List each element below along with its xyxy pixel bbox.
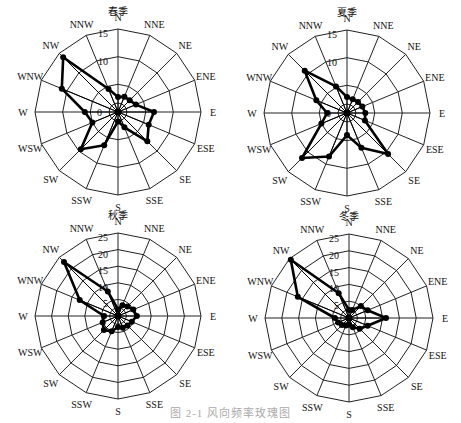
direction-label: SW [43,378,59,389]
data-point [130,307,136,313]
data-point [344,132,350,138]
data-point [302,68,308,74]
data-point [365,307,371,313]
direction-label: W [18,311,28,322]
direction-label: NW [42,40,59,51]
wind-rose-chart: NNNENEENEEESESESSESSSWSWWSWWWNWNWNNW0101… [17,6,216,213]
data-point [333,83,339,89]
data-point [77,297,83,303]
tick-label: 20 [98,249,108,260]
data-point [105,289,111,295]
chart-title: 春季 [108,6,128,17]
direction-label: NNW [70,19,94,30]
direction-label: WSW [247,144,272,155]
direction-label: E [210,311,216,322]
data-point [127,97,133,103]
direction-label: W [247,108,257,119]
data-point [121,124,127,130]
data-point [78,146,84,152]
tick-label: 15 [98,28,108,39]
data-point [119,302,125,308]
data-point [124,304,130,310]
direction-label: ESE [429,350,447,361]
direction-label: E [439,108,445,119]
data-point [358,303,364,309]
data-point [365,323,371,329]
direction-label: NW [273,245,290,256]
data-point [109,328,115,334]
data-point [295,294,301,300]
tick-label: 10 [98,56,108,67]
direction-label: NNE [373,20,394,31]
direction-label: NW [42,244,59,255]
direction-label: ENE [425,72,444,83]
data-point [121,94,127,100]
data-point [355,99,361,105]
tick-label: 10 [327,57,337,68]
direction-label: SW [43,174,59,185]
data-point [144,138,150,144]
wind-rose-chart: NNNENEENEEESESESSESSSWSWWSWWWNWNWNNW5101… [247,210,448,420]
tick-label: 15 [98,265,108,276]
chart-title: 冬季 [339,210,359,222]
direction-label: NE [179,244,192,255]
data-point [324,110,330,116]
data-point [313,97,319,103]
direction-label: ENE [196,71,215,82]
direction-label: WNW [247,276,274,287]
data-point [288,257,294,263]
data-point [101,327,107,333]
data-point [383,315,389,321]
data-point [59,86,65,92]
data-point [133,102,139,108]
direction-label: NNE [144,223,165,234]
data-point [115,94,121,100]
direction-label: WNW [17,71,44,82]
direction-label: WNW [246,72,273,83]
data-point [106,86,112,92]
tick-label: 25 [98,232,108,243]
wind-rose-chart: NNNENEENEEESESESSESSSWSWWSWWWNWNWNNW5101… [17,209,216,417]
data-point [332,315,338,321]
data-point [61,259,67,265]
data-point [350,96,356,102]
direction-label: SSW [71,195,92,206]
direction-label: SSE [146,195,163,206]
direction-label: SE [179,174,191,185]
direction-label: ESE [426,144,444,155]
tick-label: 20 [329,250,339,261]
data-point [344,94,350,100]
direction-label: NNW [300,224,324,235]
wind-rose-figure: NNNENEENEEESESESSESSSWSWWSWWWNWNWNNW0101… [0,0,461,423]
direction-label: SSE [375,196,392,207]
direction-label: ENE [428,276,447,287]
direction-label: NW [271,41,288,52]
direction-label: W [248,313,258,324]
data-point [146,122,152,128]
tick-label: 15 [327,29,337,40]
direction-label: NNE [375,224,396,235]
data-point [357,326,363,332]
data-point [60,54,66,60]
direction-label: NE [179,40,192,51]
direction-label: E [442,313,448,324]
direction-label: WSW [248,350,273,361]
direction-label: SW [272,175,288,186]
direction-label: ENE [196,275,215,286]
data-point [299,155,305,161]
direction-label: NE [408,41,421,52]
direction-label: ESE [197,143,215,154]
wind-rose-chart: NNNENEENEEESESESSESSSWSWWSWWWNWNWNNW0101… [246,7,445,214]
data-point [336,290,342,296]
data-point [100,319,106,325]
data-point [134,313,140,319]
direction-label: NE [410,245,423,256]
direction-label: SE [179,378,191,389]
direction-label: WSW [18,143,43,154]
data-point [101,142,107,148]
figure-caption: 图 2-1 风向频率玫瑰图 [0,404,461,420]
direction-label: E [210,107,216,118]
direction-label: SW [274,381,290,392]
direction-label: NNW [70,223,94,234]
direction-label: SE [411,381,423,392]
